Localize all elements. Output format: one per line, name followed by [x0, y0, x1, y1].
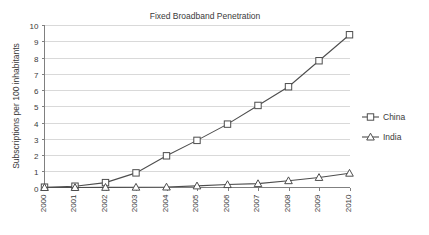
y-axis-title: Subscriptions per 100 inhabitants: [11, 43, 21, 169]
x-tick-label: 2009: [313, 194, 322, 212]
legend-label: India: [383, 132, 402, 142]
x-tick-label: 2007: [252, 194, 261, 212]
data-point-marker: [133, 170, 139, 176]
legend-marker-icon: [367, 114, 373, 120]
y-tick-label: 5: [34, 103, 39, 112]
legend-label: China: [383, 112, 405, 122]
data-point-marker: [346, 32, 352, 38]
data-point-marker: [316, 58, 322, 64]
x-tick-label: 2003: [130, 194, 139, 212]
x-tick-label: 2010: [344, 194, 353, 212]
y-tick-label: 0: [34, 185, 39, 194]
data-point-marker: [255, 102, 261, 108]
data-point-marker: [285, 84, 291, 90]
y-tick-label: 8: [34, 55, 39, 64]
data-point-marker: [163, 153, 169, 159]
y-tick-label: 3: [34, 136, 39, 145]
line-chart: Fixed Broadband Penetration Subscription…: [0, 0, 429, 235]
x-tick-label: 2004: [161, 194, 170, 212]
y-tick-label: 2: [34, 152, 39, 161]
data-point-marker: [224, 121, 230, 127]
y-tick-label: 1: [34, 168, 39, 177]
legend-item-china[interactable]: China: [362, 112, 405, 122]
x-tick-label: 2000: [39, 194, 48, 212]
y-tick-label: 4: [34, 120, 39, 129]
y-tick-label: 6: [34, 87, 39, 96]
x-tick-label: 2008: [283, 194, 292, 212]
data-point-marker: [194, 137, 200, 143]
chart-container: Fixed Broadband Penetration Subscription…: [0, 0, 429, 235]
y-tick-label: 10: [30, 22, 39, 31]
chart-title: Fixed Broadband Penetration: [150, 11, 261, 21]
x-tick-label: 2002: [100, 194, 109, 212]
x-tick-label: 2006: [222, 194, 231, 212]
x-tick-label: 2001: [69, 194, 78, 212]
y-tick-label: 9: [34, 38, 39, 47]
y-tick-label: 7: [34, 71, 39, 80]
x-tick-label: 2005: [191, 194, 200, 212]
